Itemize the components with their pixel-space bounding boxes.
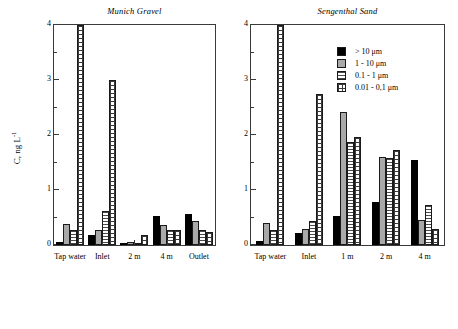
bar	[102, 211, 109, 245]
y-axis-label-exponent: -1	[10, 132, 17, 137]
bar	[309, 221, 316, 245]
y-tick-label: 2	[244, 129, 248, 138]
bar	[425, 205, 432, 245]
x-tick-label: 4 m	[419, 252, 431, 261]
y-tick-label: 2	[47, 129, 51, 138]
bar	[333, 216, 340, 245]
bar	[302, 229, 309, 246]
x-tick-label: 2 m	[380, 252, 392, 261]
bar-group: Tap water	[54, 25, 86, 245]
bar	[295, 233, 302, 245]
bar-group: 4 m	[151, 25, 183, 245]
y-tick-label: 3	[244, 74, 248, 83]
bar-stack	[328, 25, 367, 245]
y-tick-label: 0	[244, 239, 248, 248]
bar-group: 4 m	[405, 25, 444, 245]
figure-root: C, ng L-1 Munich Gravel 01234Tap waterIn…	[0, 0, 458, 329]
x-tick-label: Outlet	[189, 252, 209, 261]
x-tick	[70, 240, 71, 245]
bar-stack	[86, 25, 118, 245]
y-tick-label: 1	[47, 184, 51, 193]
bar	[263, 223, 270, 245]
x-tick-label: Inlet	[95, 252, 110, 261]
bar	[95, 230, 102, 245]
bar	[277, 25, 284, 245]
bar	[77, 25, 84, 245]
x-tick-label: 4 m	[161, 252, 173, 261]
bar	[109, 80, 116, 245]
bar	[379, 157, 386, 245]
x-tick-label: 1 m	[341, 252, 353, 261]
y-tick-label: 3	[47, 74, 51, 83]
bar-group: Inlet	[86, 25, 118, 245]
x-tick	[386, 240, 387, 245]
bar	[167, 230, 174, 245]
plot-area: 01234Tap waterInlet2 m4 mOutlet	[53, 24, 216, 246]
panel-title: Munich Gravel	[53, 6, 216, 16]
bar	[127, 242, 134, 245]
y-tick-label: 1	[244, 184, 248, 193]
bar	[70, 230, 77, 245]
bar-stack	[367, 25, 406, 245]
y-axis-label-text: C, ng L	[12, 137, 22, 164]
bar	[372, 202, 379, 245]
x-tick	[425, 240, 426, 245]
bar	[270, 230, 277, 245]
x-tick	[309, 240, 310, 245]
bar	[174, 230, 181, 245]
bar-group: Tap water	[251, 25, 290, 245]
bar	[418, 220, 425, 245]
bar-group: 2 m	[367, 25, 406, 245]
bar	[432, 229, 439, 246]
bar-stack	[405, 25, 444, 245]
bar	[386, 158, 393, 245]
bar	[160, 225, 167, 245]
x-tick	[199, 240, 200, 245]
bar-group: Inlet	[290, 25, 329, 245]
y-axis-label: C, ng L-1	[10, 108, 22, 188]
bar	[354, 137, 361, 245]
x-tick	[102, 240, 103, 245]
bar-stack	[290, 25, 329, 245]
panel-title: Sengenthal Sand	[250, 6, 445, 16]
bar-group: 2 m	[118, 25, 150, 245]
bar	[120, 243, 127, 245]
x-tick-label: 2 m	[128, 252, 140, 261]
bar	[185, 214, 192, 245]
bar	[206, 232, 213, 245]
bar	[88, 235, 95, 245]
bar-stack	[54, 25, 86, 245]
bar-stack	[251, 25, 290, 245]
x-tick	[167, 240, 168, 245]
x-tick	[347, 240, 348, 245]
bar	[256, 241, 263, 245]
bar	[393, 150, 400, 245]
bar	[316, 94, 323, 245]
bar	[63, 224, 70, 245]
x-tick-label: Tap water	[54, 252, 86, 261]
bar-group: 1 m	[328, 25, 367, 245]
bar	[199, 230, 206, 245]
y-tick-label: 0	[47, 239, 51, 248]
panel-munich-gravel: Munich Gravel 01234Tap waterInlet2 m4 mO…	[53, 24, 216, 246]
y-tick-label: 4	[244, 19, 248, 28]
plot-area: > 10 μm1 - 10 μm0.1 - 1 μm0.01 - 0,1 μm …	[250, 24, 445, 246]
y-tick-label: 4	[47, 19, 51, 28]
bar	[153, 216, 160, 245]
bar	[340, 112, 347, 245]
panel-sengenthal-sand: Sengenthal Sand > 10 μm1 - 10 μm0.1 - 1 …	[250, 24, 445, 246]
bar	[56, 242, 63, 245]
x-tick-label: Inlet	[302, 252, 317, 261]
bar-stack	[183, 25, 215, 245]
bar	[134, 243, 141, 245]
x-tick	[270, 240, 271, 245]
bar-stack	[118, 25, 150, 245]
bar	[141, 235, 148, 245]
x-tick	[134, 240, 135, 245]
bar	[411, 160, 418, 245]
bar	[347, 142, 354, 245]
bar	[192, 221, 199, 245]
bar-stack	[151, 25, 183, 245]
x-tick-label: Tap water	[254, 252, 286, 261]
bar-group: Outlet	[183, 25, 215, 245]
